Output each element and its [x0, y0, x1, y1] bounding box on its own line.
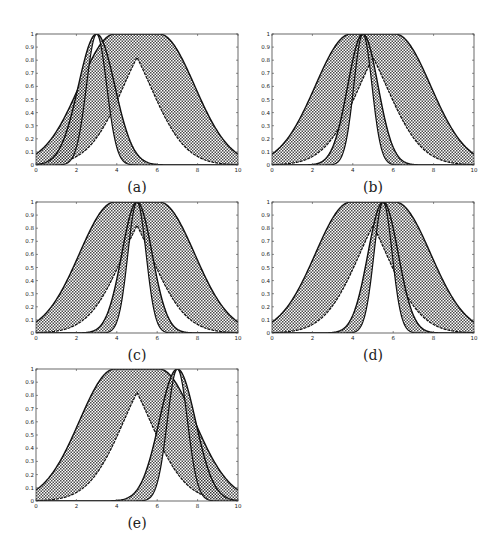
- panel-e: 024681000.10.20.30.40.50.60.70.80.91(e): [25, 366, 242, 531]
- y-tick-label: 0.6: [25, 83, 34, 89]
- panel-label: (b): [363, 179, 383, 195]
- x-tick-label: 0: [34, 167, 38, 173]
- y-tick-label: 0.9: [261, 212, 270, 218]
- x-tick-label: 4: [115, 167, 119, 173]
- panel-c: 024681000.10.20.30.40.50.60.70.80.91(c): [25, 199, 242, 363]
- y-tick-label: 0.3: [261, 291, 270, 297]
- y-tick-label: 0.2: [261, 304, 270, 310]
- x-tick-label: 0: [34, 335, 38, 341]
- x-tick-label: 8: [196, 167, 200, 173]
- figure: 024681000.10.20.30.40.50.60.70.80.91(a)0…: [0, 0, 500, 553]
- x-tick-label: 10: [471, 167, 478, 173]
- y-tick-label: 0.2: [25, 472, 34, 478]
- plot-area: [36, 202, 238, 333]
- x-tick-label: 2: [311, 167, 315, 173]
- panel-label: (d): [363, 347, 383, 363]
- y-tick-label: 0.6: [261, 251, 270, 257]
- y-tick-label: 0: [267, 162, 271, 168]
- y-tick-label: 1: [267, 199, 271, 205]
- y-tick-label: 0.2: [261, 136, 270, 142]
- x-tick-label: 6: [391, 335, 395, 341]
- y-tick-label: 1: [267, 31, 271, 37]
- x-tick-label: 4: [115, 503, 119, 509]
- y-tick-label: 0.9: [261, 44, 270, 50]
- y-tick-label: 0.8: [25, 57, 34, 63]
- y-tick-label: 0.2: [25, 304, 34, 310]
- y-tick-label: 0.4: [25, 445, 34, 451]
- y-tick-label: 0.2: [25, 136, 34, 142]
- x-tick-label: 2: [75, 335, 79, 341]
- y-tick-label: 0.1: [25, 317, 34, 323]
- panel-label: (e): [127, 515, 146, 531]
- x-tick-label: 4: [351, 167, 355, 173]
- y-tick-label: 1: [31, 366, 35, 372]
- y-tick-label: 0.4: [261, 278, 270, 284]
- y-tick-label: 0.7: [261, 238, 270, 244]
- x-tick-label: 8: [432, 335, 436, 341]
- x-tick-label: 2: [75, 503, 79, 509]
- y-tick-label: 0.4: [25, 110, 34, 116]
- y-tick-label: 0: [31, 330, 35, 336]
- y-tick-label: 0.8: [25, 392, 34, 398]
- y-tick-label: 0: [31, 162, 35, 168]
- y-tick-label: 0: [31, 498, 35, 504]
- x-tick-label: 2: [75, 167, 79, 173]
- y-tick-label: 0.6: [25, 251, 34, 257]
- x-tick-label: 8: [196, 335, 200, 341]
- panel-label: (a): [127, 179, 146, 195]
- y-tick-label: 0.3: [25, 123, 34, 129]
- plot-area: [272, 202, 474, 333]
- y-tick-label: 0.1: [261, 317, 270, 323]
- y-tick-label: 0.4: [261, 110, 270, 116]
- x-tick-label: 6: [155, 503, 159, 509]
- wide-FOU-fou-area: [36, 202, 238, 333]
- x-tick-label: 10: [235, 335, 242, 341]
- y-tick-label: 0.5: [25, 97, 34, 103]
- y-tick-label: 0.7: [25, 70, 34, 76]
- y-tick-label: 0.7: [25, 406, 34, 412]
- plot-area: [36, 369, 238, 501]
- y-tick-label: 1: [31, 199, 35, 205]
- plot-area: [36, 34, 238, 165]
- y-tick-label: 0.8: [261, 225, 270, 231]
- y-tick-label: 0.5: [261, 97, 270, 103]
- x-tick-label: 2: [311, 335, 315, 341]
- y-tick-label: 0.6: [261, 83, 270, 89]
- x-tick-label: 10: [235, 167, 242, 173]
- y-tick-label: 0.6: [25, 419, 34, 425]
- y-tick-label: 0.9: [25, 379, 34, 385]
- panel-d: 024681000.10.20.30.40.50.60.70.80.91(d): [261, 199, 478, 363]
- x-tick-label: 6: [391, 167, 395, 173]
- x-tick-label: 6: [155, 167, 159, 173]
- y-tick-label: 0.9: [25, 44, 34, 50]
- y-tick-label: 0.7: [25, 238, 34, 244]
- plot-area: [272, 34, 474, 165]
- y-tick-label: 1: [31, 31, 35, 37]
- y-tick-label: 0: [267, 330, 271, 336]
- panel-label: (c): [128, 347, 147, 363]
- y-tick-label: 0.9: [25, 212, 34, 218]
- x-tick-label: 8: [196, 503, 200, 509]
- x-tick-label: 4: [115, 335, 119, 341]
- x-tick-label: 8: [432, 167, 436, 173]
- y-tick-label: 0.5: [261, 265, 270, 271]
- y-tick-label: 0.1: [261, 149, 270, 155]
- x-tick-label: 10: [235, 503, 242, 509]
- y-tick-label: 0.1: [25, 485, 34, 491]
- x-tick-label: 0: [270, 167, 274, 173]
- x-tick-label: 4: [351, 335, 355, 341]
- x-tick-label: 0: [270, 335, 274, 341]
- panel-b: 024681000.10.20.30.40.50.60.70.80.91(b): [261, 31, 478, 195]
- x-tick-label: 10: [471, 335, 478, 341]
- y-tick-label: 0.4: [25, 278, 34, 284]
- y-tick-label: 0.7: [261, 70, 270, 76]
- x-tick-label: 6: [155, 335, 159, 341]
- y-tick-label: 0.3: [25, 291, 34, 297]
- y-tick-label: 0.5: [25, 432, 34, 438]
- y-tick-label: 0.1: [25, 149, 34, 155]
- x-tick-label: 0: [34, 503, 38, 509]
- y-tick-label: 0.8: [261, 57, 270, 63]
- y-tick-label: 0.3: [25, 458, 34, 464]
- panel-a: 024681000.10.20.30.40.50.60.70.80.91(a): [25, 31, 242, 195]
- y-tick-label: 0.5: [25, 265, 34, 271]
